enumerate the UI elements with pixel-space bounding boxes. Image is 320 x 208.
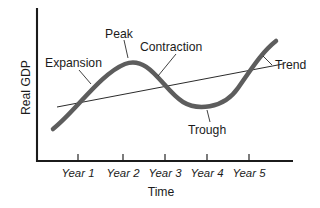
y-axis-title: Real GDP	[19, 60, 33, 115]
contraction-leader-line	[158, 54, 176, 76]
x-tick-label-year-5: Year 5	[233, 167, 267, 179]
business-cycle-figure: Real GDP Time Year 1 Year 2 Year 3 Year …	[0, 0, 320, 208]
annotation-label-trough: Trough	[188, 123, 226, 137]
business-cycle-curve	[53, 41, 276, 129]
x-tick-label-year-2: Year 2	[107, 167, 141, 179]
x-tick-label-year-4: Year 4	[191, 167, 224, 179]
annotation-label-expansion: Expansion	[45, 56, 102, 70]
annotation-label-contraction: Contraction	[140, 40, 202, 54]
annotation-label-trend: Trend	[275, 58, 306, 72]
trend-leader-line	[263, 56, 272, 65]
x-axis-title: Time	[148, 185, 175, 199]
annotation-label-peak: Peak	[105, 27, 134, 41]
x-tick-label-year-3: Year 3	[149, 167, 183, 179]
peak-leader-line	[124, 40, 128, 58]
trough-leader-line	[207, 110, 210, 122]
x-tick-label-year-1: Year 1	[62, 167, 95, 179]
expansion-leader-line	[79, 70, 91, 84]
